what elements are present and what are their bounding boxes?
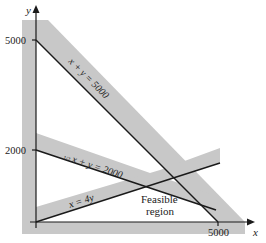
- feasible-region-diagram: y x 5000 2000 5000 x + y = 5000 1/2 x + …: [0, 0, 266, 243]
- y-axis-label: y: [25, 4, 31, 16]
- x-tick-label-5000: 5000: [208, 227, 229, 238]
- shaded-bands: [22, 20, 245, 234]
- band-x-plus-y-5000: [36, 20, 245, 222]
- x-axis-arrow-icon: [247, 219, 255, 226]
- x-axis-label: x: [252, 226, 258, 238]
- y-tick-label-2000: 2000: [5, 145, 26, 156]
- y-axis-band: [22, 20, 36, 233]
- y-tick-label-5000: 5000: [5, 35, 26, 46]
- feasible-region-label-line2: region: [146, 205, 175, 217]
- y-axis-arrow-icon: [33, 5, 40, 13]
- feasible-region-label-line1: Feasible: [141, 193, 178, 205]
- line-x-plus-y-5000: [36, 40, 218, 222]
